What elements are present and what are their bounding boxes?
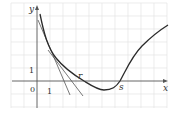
function-graph: y x 0 1 1 r s <box>0 0 172 114</box>
function-curve <box>40 14 168 90</box>
y-unit-label: 1 <box>29 66 34 75</box>
y-axis-label: y <box>28 4 35 14</box>
s-label: s <box>119 82 124 92</box>
origin-label: 0 <box>30 85 35 94</box>
x-unit-label: 1 <box>47 87 52 96</box>
x-axis-label: x <box>163 83 168 93</box>
x-axis <box>12 79 168 83</box>
r-label: r <box>78 71 83 81</box>
y-axis-arrow-icon <box>35 5 39 10</box>
